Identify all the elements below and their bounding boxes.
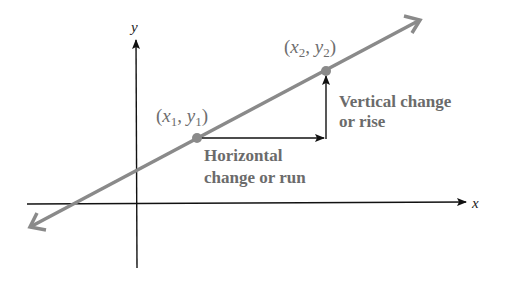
point-1 [192,133,202,143]
y-axis-label: y [129,19,138,35]
point-1-label: (x1, y1) [156,105,208,129]
slope-diagram: x y (x1, y1) (x2, y2) Vertical change or… [0,0,506,294]
run-label-line1: Horizontal [204,146,283,165]
x-axis [27,202,466,204]
point-2-label: (x2, y2) [284,36,336,60]
x-axis-label: x [471,195,479,211]
run-label-line2: change or run [204,168,306,187]
y-axis [136,40,137,268]
rise-label-line2: or rise [339,112,386,131]
point-2 [321,66,331,76]
rise-label-line1: Vertical change [339,92,452,111]
